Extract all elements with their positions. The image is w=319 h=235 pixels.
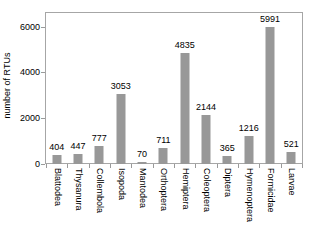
bar-slot: 404 [46, 13, 67, 164]
y-axis-tick-labels: 0200040006000 [6, 0, 40, 235]
x-axis-label-slot: Formicidae [259, 168, 280, 230]
y-axis-tick-label: 4000 [6, 68, 40, 77]
bar-value-label: 447 [70, 142, 85, 151]
bar-slot: 711 [153, 13, 174, 164]
x-axis-tick-label: Orthoptera [159, 168, 168, 211]
bar-slot: 365 [217, 13, 238, 164]
bar[interactable] [287, 152, 296, 164]
bar-slot: 777 [89, 13, 110, 164]
bar[interactable] [116, 94, 125, 164]
x-axis-tick-label: Formicidae [265, 168, 274, 213]
x-axis-label-slot: Orthoptera [153, 168, 174, 230]
bar-value-label: 404 [49, 143, 64, 152]
x-axis-label-slot: Thysanura [67, 168, 88, 230]
y-axis-tick-label: 2000 [6, 114, 40, 123]
bar-slot: 70 [131, 13, 152, 164]
x-axis-tick-label: Mantodea [137, 168, 146, 208]
bar[interactable] [201, 115, 210, 164]
x-axis-tick-labels: BlattodeaThysanuraCollembolaIsopodaManto… [46, 168, 302, 230]
y-axis-tick-label: 6000 [6, 22, 40, 31]
bar-chart: number of RTUs 0200040006000 40444777730… [0, 0, 319, 235]
bar-slot: 447 [67, 13, 88, 164]
x-axis-tick-label: Isopoda [116, 168, 125, 200]
bar-slot: 3053 [110, 13, 131, 164]
x-axis-tick-label: Hymenoptera [244, 168, 253, 222]
x-axis-label-slot: Blattodea [46, 168, 67, 230]
x-axis-label-slot: Mantodea [131, 168, 152, 230]
plot-area: 4044477773053707114835214436512165991521 [46, 13, 302, 164]
bar-value-label: 70 [137, 150, 147, 159]
x-axis-tick-label: Larvae [287, 168, 296, 196]
bar-value-label: 2144 [196, 103, 216, 112]
bar-slot: 521 [281, 13, 302, 164]
bar[interactable] [223, 156, 232, 164]
x-axis-label-slot: Hemiptera [174, 168, 195, 230]
bar-slot: 1216 [238, 13, 259, 164]
bar-value-label: 777 [92, 134, 107, 143]
y-axis-tick-mark [41, 164, 45, 165]
x-axis-tick-label: Diptera [223, 168, 232, 197]
bar-value-label: 5991 [260, 15, 280, 24]
bar[interactable] [265, 27, 274, 164]
x-axis-label-slot: Hymenoptera [238, 168, 259, 230]
x-axis-label-slot: Coleoptera [195, 168, 216, 230]
x-axis-tick-label: Thysanura [73, 168, 82, 211]
bar[interactable] [52, 155, 61, 164]
x-axis-label-slot: Isopoda [110, 168, 131, 230]
bar-slot: 5991 [259, 13, 280, 164]
bar-value-label: 365 [220, 144, 235, 153]
x-axis-tick-mark [302, 164, 303, 168]
bar-value-label: 3053 [111, 82, 131, 91]
bar[interactable] [159, 148, 168, 164]
bar[interactable] [180, 53, 189, 164]
bar-value-label: 521 [284, 140, 299, 149]
x-axis-tick-label: Hemiptera [180, 168, 189, 210]
y-axis-tick-label: 0 [6, 160, 40, 169]
bar-value-label: 1216 [239, 124, 259, 133]
bar-value-label: 4835 [175, 41, 195, 50]
bar[interactable] [73, 154, 82, 164]
bar[interactable] [244, 136, 253, 164]
x-axis-tick-label: Coleoptera [201, 168, 210, 212]
bar-slot: 2144 [195, 13, 216, 164]
bar[interactable] [95, 146, 104, 164]
x-axis-label-slot: Collembola [89, 168, 110, 230]
x-axis-label-slot: Diptera [217, 168, 238, 230]
bar-slot: 4835 [174, 13, 195, 164]
x-axis-label-slot: Larvae [281, 168, 302, 230]
x-axis-tick-label: Collembola [95, 168, 104, 213]
x-axis-tick-label: Blattodea [52, 168, 61, 206]
bar-value-label: 711 [156, 136, 170, 145]
